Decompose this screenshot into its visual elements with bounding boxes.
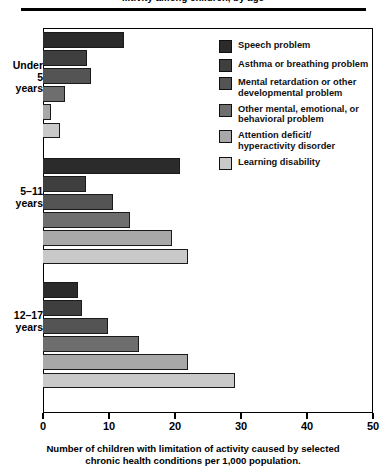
chart-legend: Speech problemAsthma or breathing proble… (219, 40, 379, 176)
legend-label: Other mental, emotional, or behavioral p… (238, 104, 359, 125)
axis-tick-label: 40 (301, 420, 313, 432)
axis-tick-label: 10 (103, 420, 115, 432)
axis-tick (174, 413, 176, 419)
group-label: 12–17 years (1, 310, 43, 333)
caption-line-1: Number of children with limitation of ac… (18, 443, 368, 455)
axis-tick (42, 413, 44, 419)
legend-swatch-icon (219, 77, 232, 90)
legend-item: Mental retardation or other developmenta… (219, 77, 379, 98)
axis-tick (372, 413, 374, 419)
legend-swatch-icon (219, 59, 232, 72)
legend-swatch-icon (219, 104, 232, 117)
x-axis: 01020304050 (43, 413, 373, 433)
legend-item: Speech problem (219, 40, 379, 53)
legend-label: Learning disability (238, 157, 320, 168)
legend-label: Asthma or breathing problem (238, 59, 368, 70)
legend-label: Speech problem (238, 40, 310, 51)
title-rule (21, 8, 366, 11)
legend-label: Attention deficit/ hyperactivity disorde… (238, 130, 335, 151)
legend-item: Attention deficit/ hyperactivity disorde… (219, 130, 379, 151)
legend-swatch-icon (219, 130, 232, 143)
axis-tick (108, 413, 110, 419)
axis-tick-label: 0 (40, 420, 46, 432)
legend-swatch-icon (219, 40, 232, 53)
group-label: 5–11 years (1, 186, 43, 209)
axis-tick-label: 30 (235, 420, 247, 432)
group-label: Under 5 years (1, 60, 43, 95)
legend-swatch-icon (219, 157, 232, 170)
caption-line-2: chronic health conditions per 1,000 popu… (18, 455, 368, 467)
legend-item: Asthma or breathing problem (219, 59, 379, 72)
axis-tick (306, 413, 308, 419)
legend-item: Other mental, emotional, or behavioral p… (219, 104, 379, 125)
axis-tick (240, 413, 242, 419)
chart-title: ...tivity among children, by age (0, 0, 386, 3)
axis-tick-label: 50 (367, 420, 379, 432)
chart-caption: Number of children with limitation of ac… (0, 443, 386, 467)
group-labels: Under 5 years5–11 years12–17 years (0, 28, 43, 413)
legend-label: Mental retardation or other developmenta… (238, 77, 356, 98)
legend-item: Learning disability (219, 157, 379, 170)
chart-figure: ...tivity among children, by age Under 5… (0, 0, 386, 472)
axis-tick-label: 20 (169, 420, 181, 432)
